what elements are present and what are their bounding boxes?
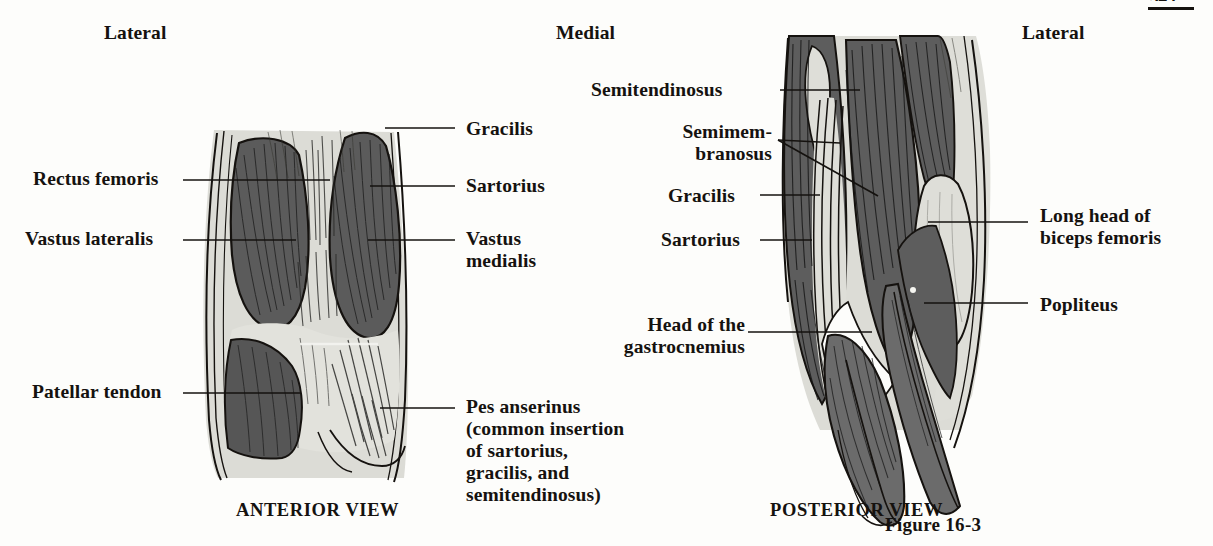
label-head-of-gastrocnemius: Head of the gastrocnemius: [613, 314, 745, 358]
anatomy-figure: 349: [0, 0, 1213, 546]
label-pes-anserinus: Pes anserinus (common insertion of sarto…: [466, 396, 624, 506]
label-sartorius-anterior: Sartorius: [466, 175, 545, 197]
label-semitendinosus: Semitendinosus: [591, 79, 722, 101]
orientation-label-lateral-right: Lateral: [1022, 22, 1084, 44]
caption-anterior-view: ANTERIOR VIEW: [236, 500, 399, 521]
label-vastus-medialis: Vastus medialis: [466, 228, 536, 272]
label-patellar-tendon: Patellar tendon: [32, 381, 162, 403]
label-rectus-femoris: Rectus femoris: [33, 168, 158, 190]
label-popliteus: Popliteus: [1040, 294, 1118, 316]
label-semimembranosus: Semimem- branosus: [646, 121, 772, 165]
anterior-leg-illustration: [203, 130, 408, 482]
label-vastus-lateralis: Vastus lateralis: [25, 228, 153, 250]
label-sartorius-posterior: Sartorius: [661, 229, 740, 251]
label-gracilis-anterior: Gracilis: [466, 118, 533, 140]
label-long-head-biceps-femoris: Long head of biceps femoris: [1040, 205, 1161, 249]
label-gracilis-posterior: Gracilis: [668, 185, 735, 207]
orientation-label-lateral-left: Lateral: [104, 22, 166, 44]
posterior-leg-illustration: [783, 36, 991, 525]
figure-number: Figure 16-3: [885, 514, 981, 536]
orientation-label-medial: Medial: [556, 22, 615, 44]
